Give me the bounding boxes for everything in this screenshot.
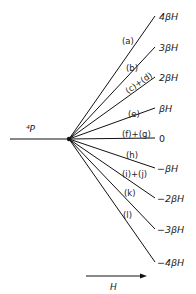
energy-label-neg-3bh: −3βH	[157, 224, 184, 235]
zeeman-splitting-diagram: ⁴P (a) (b) (c)+(d) (e) (f)+(g) (h) (i)+(…	[0, 0, 196, 294]
level-line-l	[69, 139, 155, 262]
arrow-head-icon	[140, 274, 147, 279]
line-label-h: (h)	[126, 150, 138, 160]
line-label-b: (b)	[126, 63, 138, 73]
field-label: H	[110, 282, 117, 292]
line-label-ij: (i)+(j)	[122, 169, 147, 179]
energy-label-2bh: 2βH	[159, 72, 178, 83]
line-label-fg: (f)+(g)	[122, 129, 151, 139]
term-label: ⁴P	[26, 124, 36, 134]
level-line-h	[69, 139, 155, 168]
energy-label-neg-4bh: −4βH	[157, 257, 184, 268]
origin-point	[67, 137, 71, 141]
level-line-b	[69, 47, 155, 139]
line-label-cd: (c)+(d)	[123, 70, 154, 96]
energy-label-0: 0	[159, 133, 165, 144]
energy-label-neg-bh: −βH	[157, 163, 178, 174]
energy-label-bh: βH	[158, 103, 172, 114]
line-label-k: (k)	[124, 188, 136, 198]
energy-label-neg-2bh: −2βH	[157, 193, 184, 204]
line-label-l: (l)	[123, 210, 132, 220]
line-label-e: (e)	[128, 109, 140, 119]
energy-label-4bh: 4βH	[159, 11, 178, 22]
level-line-k	[69, 139, 155, 229]
line-label-a: (a)	[122, 36, 134, 46]
splitting-lines	[69, 16, 155, 262]
energy-label-3bh: 3βH	[159, 42, 178, 53]
